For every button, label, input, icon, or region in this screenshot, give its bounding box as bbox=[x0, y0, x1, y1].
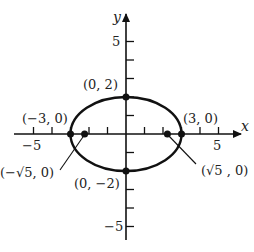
label-right-focus: (√5 , 0) bbox=[201, 163, 248, 178]
point-left-vertex bbox=[67, 131, 74, 138]
label-bottom: (0, −2) bbox=[74, 176, 120, 191]
label-right-vertex: (3, 0) bbox=[183, 111, 218, 126]
x-tick-label-neg5: −5 bbox=[22, 138, 41, 153]
point-right-focus bbox=[164, 131, 171, 138]
ellipse-diagram: y x 5 −5 −5 5 (0, 2) (0, −2) (−3, 0) (3,… bbox=[0, 0, 254, 252]
label-left-vertex: (−3, 0) bbox=[22, 111, 68, 126]
x-axis-label: x bbox=[241, 118, 249, 134]
label-top: (0, 2) bbox=[83, 77, 118, 92]
left-focus-leader bbox=[60, 134, 85, 170]
point-top bbox=[123, 94, 130, 101]
point-bottom bbox=[123, 168, 130, 175]
y-tick-label-5: 5 bbox=[112, 34, 120, 49]
label-left-focus: (−√5, 0) bbox=[0, 165, 54, 180]
y-tick-label-neg5: −5 bbox=[104, 219, 123, 234]
y-axis-label: y bbox=[112, 9, 122, 25]
point-left-focus bbox=[81, 131, 88, 138]
x-tick-label-5: 5 bbox=[213, 138, 221, 153]
point-right-vertex bbox=[178, 131, 185, 138]
